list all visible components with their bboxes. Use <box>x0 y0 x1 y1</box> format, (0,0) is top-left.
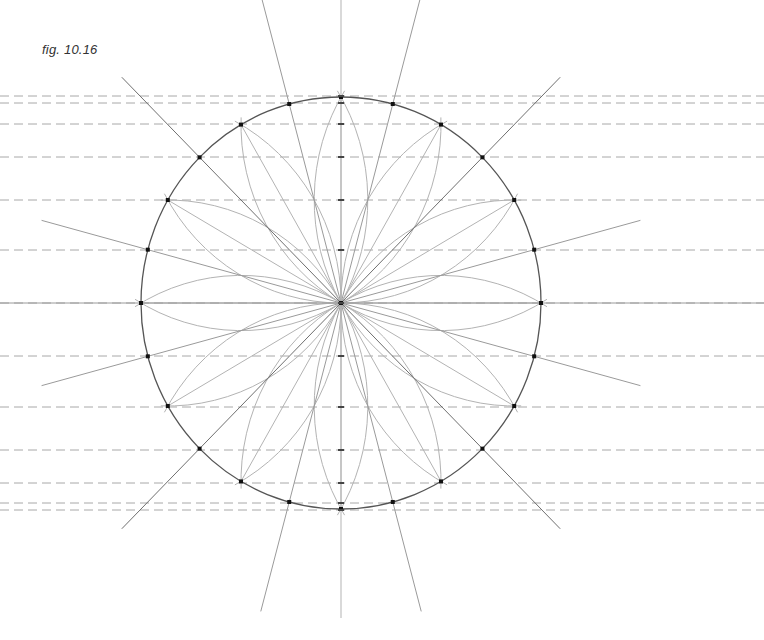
division-point <box>391 500 395 504</box>
axis-tick <box>338 355 344 357</box>
division-point <box>439 123 443 127</box>
axis-tick <box>338 102 344 104</box>
axis-tick <box>338 482 344 484</box>
construction-arc <box>314 91 521 406</box>
construction-arc <box>135 275 441 488</box>
division-point <box>439 479 443 483</box>
division-point <box>239 479 243 483</box>
radial-line-bisector <box>42 220 341 303</box>
circle-division-construction <box>0 0 764 640</box>
radial-line-bisector <box>341 220 640 303</box>
radial-line-bisector <box>261 0 341 303</box>
division-point <box>391 102 395 106</box>
construction-arc <box>241 275 547 488</box>
axis-tick <box>338 156 344 158</box>
division-point <box>166 198 170 202</box>
division-point <box>166 404 170 408</box>
division-point <box>512 404 516 408</box>
radial-line-bisector <box>341 303 421 611</box>
division-point <box>539 301 543 305</box>
radial-line-bisector <box>341 0 421 303</box>
division-point <box>512 198 516 202</box>
division-point <box>532 354 536 358</box>
construction-arc <box>241 117 547 330</box>
division-point <box>198 155 202 159</box>
axis-tick <box>338 406 344 408</box>
construction-arc <box>161 91 368 406</box>
axis-tick <box>338 95 344 97</box>
division-point <box>198 447 202 451</box>
construction-arc <box>161 200 368 515</box>
axis-tick <box>338 509 344 511</box>
construction-arc <box>314 200 521 515</box>
radial-line-bisector <box>341 303 640 386</box>
division-point <box>239 123 243 127</box>
division-point <box>146 248 150 252</box>
construction-arc <box>135 117 441 330</box>
division-point <box>480 447 484 451</box>
division-point <box>146 354 150 358</box>
radial-line-bisector <box>261 303 341 611</box>
radial-line-bisector <box>42 303 341 386</box>
axis-tick <box>338 199 344 201</box>
axis-tick <box>338 449 344 451</box>
division-point <box>532 248 536 252</box>
division-point <box>287 102 291 106</box>
division-point <box>480 155 484 159</box>
axis-tick <box>338 249 344 251</box>
axis-tick <box>338 123 344 125</box>
division-point <box>287 500 291 504</box>
axis-tick <box>338 502 344 504</box>
radial-lines <box>0 0 764 618</box>
division-point <box>139 301 143 305</box>
axis-tick <box>338 302 344 304</box>
